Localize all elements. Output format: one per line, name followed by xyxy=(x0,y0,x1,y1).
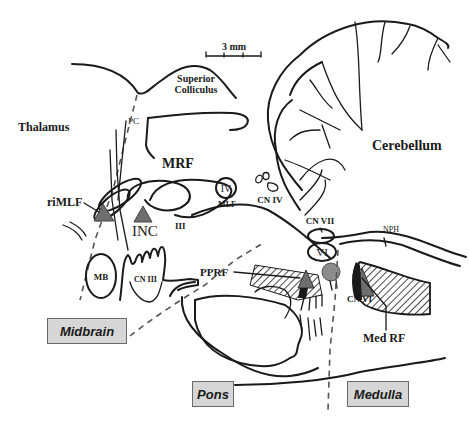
svg-text:Colliculus: Colliculus xyxy=(175,84,218,95)
region-label-midbrain: Midbrain xyxy=(47,318,127,344)
svg-text:3 mm: 3 mm xyxy=(222,41,247,52)
svg-text:riMLF: riMLF xyxy=(47,195,82,209)
svg-text:III: III xyxy=(175,221,186,231)
region-label-medulla: Medulla xyxy=(347,381,409,407)
svg-text:CN III: CN III xyxy=(134,275,157,284)
svg-text:Cerebellum: Cerebellum xyxy=(372,138,442,153)
svg-text:INC: INC xyxy=(132,223,158,239)
svg-text:NPH: NPH xyxy=(383,225,399,234)
svg-text:MRF: MRF xyxy=(162,156,194,171)
svg-text:CN IV: CN IV xyxy=(257,195,283,205)
svg-text:VI: VI xyxy=(316,246,328,258)
svg-text:Med RF: Med RF xyxy=(363,331,405,345)
aqueduct-line xyxy=(148,113,248,130)
svg-text:Thalamus: Thalamus xyxy=(18,120,70,134)
region-label-pons: Pons xyxy=(192,381,234,407)
svg-text:Superior: Superior xyxy=(177,73,215,84)
svg-text:CN VII: CN VII xyxy=(306,216,335,226)
scale-bar: 3 mm xyxy=(206,41,261,57)
brainstem-diagram: 3 mm Superior Colliculus PC Thalamus MRF… xyxy=(0,0,469,426)
cerebellum-outline xyxy=(268,21,450,215)
inc-triangle xyxy=(134,206,152,222)
svg-text:MB: MB xyxy=(94,272,109,282)
svg-text:IV: IV xyxy=(221,183,232,194)
svg-text:PPRF: PPRF xyxy=(200,266,228,278)
rimlf-triangle xyxy=(94,204,114,221)
